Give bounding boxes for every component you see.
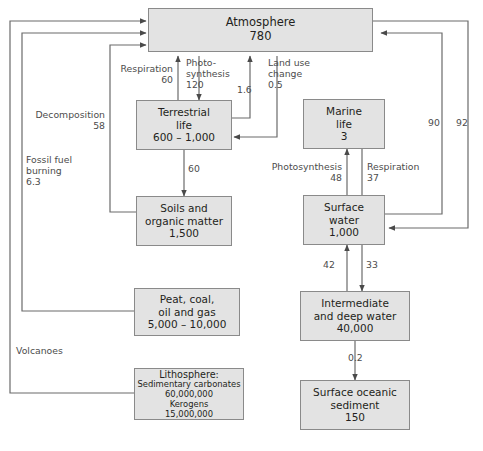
box-soils-organic-matter: Soils and organic matter 1,500 — [136, 196, 232, 246]
box-surface-water-line-2: 1,000 — [329, 226, 359, 238]
box-surface-water-line-1: water — [329, 214, 359, 226]
box-terrestrial-life: Terrestrial life 600 – 1,000 — [136, 100, 232, 150]
box-surface-water-line-0: Surface — [324, 201, 364, 213]
box-soils-line-0: Soils and — [160, 202, 208, 214]
box-sediment-line-1: sediment — [331, 399, 380, 411]
box-surface-water: Surface water 1,000 — [303, 195, 385, 245]
wire-atmosphere-to-ocean — [371, 21, 468, 228]
box-sediment-line-0: Surface oceanic — [313, 386, 397, 398]
box-soils-line-1: organic matter — [145, 215, 223, 227]
box-atmosphere: Atmosphere 780 — [148, 8, 373, 52]
box-deep-water-line-1: and deep water — [314, 310, 397, 322]
box-deep-water-line-0: Intermediate — [321, 297, 389, 309]
label-fossil-fuel-burning: Fossil fuel burning 6.3 — [26, 155, 72, 187]
label-respiration-terrestrial: Respiration 60 — [118, 64, 173, 86]
box-marine-life-line-0: Marine — [326, 105, 362, 117]
box-marine-life-line-2: 3 — [341, 130, 348, 142]
box-peat-line-1: oil and gas — [158, 306, 215, 318]
box-atmosphere-line-0: Atmosphere — [226, 16, 296, 30]
label-volcanoes: Volcanoes — [16, 346, 63, 357]
box-sediment-line-2: 150 — [345, 411, 365, 423]
label-decomposition: Decomposition 58 — [28, 110, 105, 132]
box-lithosphere: Lithosphere: Sedimentary carbonates 60,0… — [134, 368, 244, 420]
label-ocean-to-atmosphere: 90 — [428, 118, 440, 129]
box-surface-oceanic-sediment: Surface oceanic sediment 150 — [300, 380, 410, 430]
box-intermediate-deep-water: Intermediate and deep water 40,000 — [300, 291, 410, 341]
label-terrestrial-to-soils: 60 — [188, 164, 200, 175]
box-atmosphere-line-1: 780 — [250, 30, 272, 44]
box-marine-life-line-1: life — [336, 118, 352, 130]
label-terrestrial-to-atmosphere: 1.6 — [237, 85, 252, 96]
box-peat-line-2: 5,000 – 10,000 — [148, 318, 227, 330]
carbon-cycle-diagram: Atmosphere 780 Terrestrial life 600 – 1,… — [0, 0, 483, 451]
label-photosynthesis-marine: Photosynthesis 48 — [266, 162, 342, 184]
label-respiration-marine: Respiration 37 — [367, 162, 419, 184]
label-land-use-change: Land use change 0.5 — [268, 58, 310, 90]
box-terrestrial-life-line-1: life — [176, 119, 192, 131]
label-surface-to-deep: 33 — [366, 260, 378, 271]
box-deep-water-line-2: 40,000 — [337, 322, 374, 334]
label-atmosphere-to-ocean: 92 — [456, 118, 468, 129]
label-deep-to-surface: 42 — [323, 260, 335, 271]
box-lithosphere-line-4: 15,000,000 — [165, 410, 213, 420]
box-terrestrial-life-line-2: 600 – 1,000 — [153, 131, 215, 143]
box-soils-line-2: 1,500 — [169, 227, 199, 239]
box-peat-line-0: Peat, coal, — [160, 293, 215, 305]
box-marine-life: Marine life 3 — [303, 99, 385, 149]
box-terrestrial-life-line-0: Terrestrial — [158, 106, 210, 118]
label-surface-to-sediment: 0.2 — [348, 353, 363, 364]
box-peat-coal-oil-gas: Peat, coal, oil and gas 5,000 – 10,000 — [134, 288, 240, 336]
label-photosynthesis-terrestrial: Photo- synthesis 120 — [186, 58, 230, 90]
